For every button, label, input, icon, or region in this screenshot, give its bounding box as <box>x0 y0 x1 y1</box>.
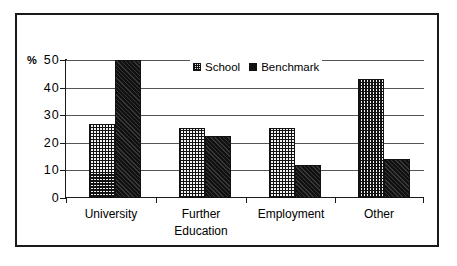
legend-entry-school: School <box>193 61 240 73</box>
bar-benchmark-university <box>115 60 141 198</box>
x-tick-start <box>66 198 67 203</box>
school-swatch-icon <box>193 63 201 71</box>
bar-benchmark-further-education <box>205 136 231 198</box>
plot-area <box>66 60 424 198</box>
chart-legend: School Benchmark <box>190 59 322 75</box>
bar-school-other <box>358 79 384 198</box>
x-category-label-employment: Employment <box>246 206 336 223</box>
bar-school-employment <box>269 128 295 198</box>
legend-entry-benchmark: Benchmark <box>249 61 319 73</box>
y-tick-label-50: 50 <box>34 54 60 66</box>
x-tick-2 <box>246 198 247 203</box>
x-tick-1 <box>156 198 157 203</box>
x-category-label-further-education: Further Education <box>156 206 246 240</box>
legend-label-school: School <box>205 61 240 73</box>
x-tick-3 <box>335 198 336 203</box>
bar-benchmark-other <box>384 159 410 198</box>
legend-label-benchmark: Benchmark <box>261 61 319 73</box>
benchmark-swatch-icon <box>249 63 257 71</box>
bar-school-university <box>89 124 115 199</box>
y-tick-label-20: 20 <box>34 137 60 149</box>
x-tick-end <box>423 198 424 203</box>
x-category-label-university: University <box>66 206 156 223</box>
y-axis-tick-labels: 50 40 30 20 10 0 <box>26 0 60 266</box>
y-tick-label-0: 0 <box>34 192 60 204</box>
y-tick-label-40: 40 <box>34 82 60 94</box>
bar-chart-figure: % 50 40 30 20 10 0 <box>0 0 457 266</box>
x-category-label-other: Other <box>335 206 423 223</box>
bar-school-further-education <box>179 128 205 198</box>
y-tick-label-30: 30 <box>34 109 60 121</box>
bar-benchmark-employment <box>295 165 321 198</box>
y-tick-label-10: 10 <box>34 164 60 176</box>
